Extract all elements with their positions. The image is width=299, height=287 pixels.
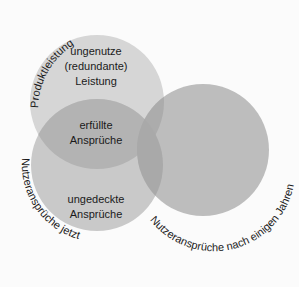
uncovered-label-2: Ansprüche — [70, 208, 123, 220]
fulfilled-label-2: Ansprüche — [70, 134, 123, 146]
unused-label-2: (redundante) — [65, 60, 128, 72]
unused-label-3: Leistung — [75, 75, 117, 87]
venn-svg: Produktleistung Nutzeransprüche jetzt Nu… — [0, 0, 299, 287]
fulfilled-label-1: erfüllte — [79, 119, 112, 131]
venn-diagram: Produktleistung Nutzeransprüche jetzt Nu… — [0, 0, 299, 287]
unused-label-1: ungenutze — [70, 45, 121, 57]
uncovered-label-1: ungedeckte — [68, 193, 125, 205]
